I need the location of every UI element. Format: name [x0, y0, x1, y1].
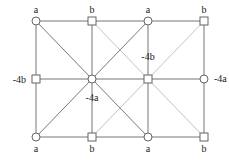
- circle-node: [32, 133, 40, 141]
- node-label: -4b: [13, 74, 26, 85]
- edge-n02-n11: [36, 79, 92, 137]
- circle-node: [144, 133, 152, 141]
- circle-node: [144, 17, 152, 25]
- node-label: a: [146, 143, 151, 154]
- circle-node: [32, 17, 40, 25]
- node-label: b: [90, 143, 95, 154]
- node-label: b: [202, 143, 207, 154]
- circle-node: [88, 75, 96, 83]
- edge-n21-n32: [148, 79, 204, 137]
- node-label: b: [202, 4, 207, 15]
- node-label: -4a: [86, 92, 99, 103]
- square-node: [200, 133, 208, 141]
- square-node: [88, 17, 96, 25]
- edge-n00-n11: [36, 21, 92, 79]
- square-node: [32, 75, 40, 83]
- circle-node: [200, 75, 208, 83]
- node-label: b: [90, 4, 95, 15]
- node-label: -4b: [141, 51, 154, 62]
- node-label: a: [34, 143, 39, 154]
- node-label: -4a: [214, 73, 227, 84]
- node-label: a: [146, 4, 151, 15]
- edges-group: [36, 21, 204, 137]
- graph-diagram: abab-4b-4a-4b-4aabab: [0, 0, 229, 163]
- edge-n21-n30: [148, 21, 204, 79]
- node-label: a: [34, 4, 39, 15]
- square-node: [200, 17, 208, 25]
- square-node: [88, 133, 96, 141]
- square-node: [144, 75, 152, 83]
